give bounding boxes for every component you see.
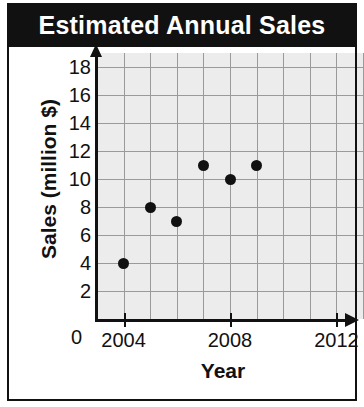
gridline-vertical <box>336 53 337 319</box>
y-axis-tick-label: 14 <box>57 112 91 135</box>
data-point <box>145 202 156 213</box>
gridline-vertical <box>177 53 178 319</box>
y-axis-tick-label: 6 <box>57 224 91 247</box>
x-axis-arrow-icon <box>345 313 359 327</box>
y-axis-tick-label: 8 <box>57 196 91 219</box>
gridline-vertical <box>283 53 284 319</box>
gridline-vertical <box>203 53 204 319</box>
x-axis-tick-mark <box>124 313 126 327</box>
data-point <box>198 160 209 171</box>
gridline-vertical <box>124 53 125 319</box>
gridline-vertical <box>310 53 311 319</box>
y-axis-arrow-icon <box>90 44 102 57</box>
title-banner: Estimated Annual Sales <box>7 3 357 47</box>
x-axis-title: Year <box>97 359 349 383</box>
chart-title: Estimated Annual Sales <box>39 11 326 40</box>
chart-figure: Estimated Annual Sales 0 Year Sales (mil… <box>0 0 364 407</box>
axis-origin-label: 0 <box>71 326 82 349</box>
data-point <box>225 174 236 185</box>
data-point <box>171 216 182 227</box>
x-axis-line <box>95 319 347 322</box>
data-point <box>251 160 262 171</box>
data-point <box>118 258 129 269</box>
x-axis-tick-label: 2012 <box>314 329 359 352</box>
grid-background <box>97 53 363 319</box>
x-axis-tick-label: 2004 <box>101 329 146 352</box>
y-axis-line <box>95 55 98 321</box>
gridline-vertical <box>150 53 151 319</box>
chart-plot-area: 0 Year Sales (million $) 246810121416182… <box>9 47 355 399</box>
y-axis-tick-label: 16 <box>57 84 91 107</box>
y-axis-tick-label: 12 <box>57 140 91 163</box>
y-axis-tick-label: 2 <box>57 280 91 303</box>
x-axis-tick-mark <box>336 313 338 327</box>
gridline-vertical <box>257 53 258 319</box>
x-axis-tick-label: 2008 <box>208 329 253 352</box>
y-axis-tick-label: 10 <box>57 168 91 191</box>
gridline-vertical <box>230 53 231 319</box>
y-axis-tick-label: 4 <box>57 252 91 275</box>
y-axis-tick-label: 18 <box>57 56 91 79</box>
x-axis-tick-mark <box>230 313 232 327</box>
